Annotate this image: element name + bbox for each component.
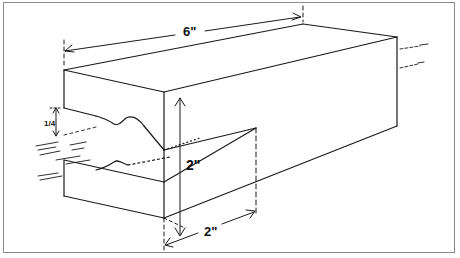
length-label: 6"	[183, 24, 196, 39]
right-break-marks	[400, 44, 428, 68]
height-label: 2"	[186, 157, 200, 173]
notch-label: 1/4	[44, 119, 56, 128]
top-face	[64, 24, 397, 92]
front-face	[64, 70, 164, 218]
dim-height	[175, 98, 185, 236]
adjoining-piece-hatch	[36, 127, 96, 180]
block-drawing: 6" 2" 2" 1/4	[0, 0, 460, 258]
width-label: 2"	[204, 224, 217, 239]
